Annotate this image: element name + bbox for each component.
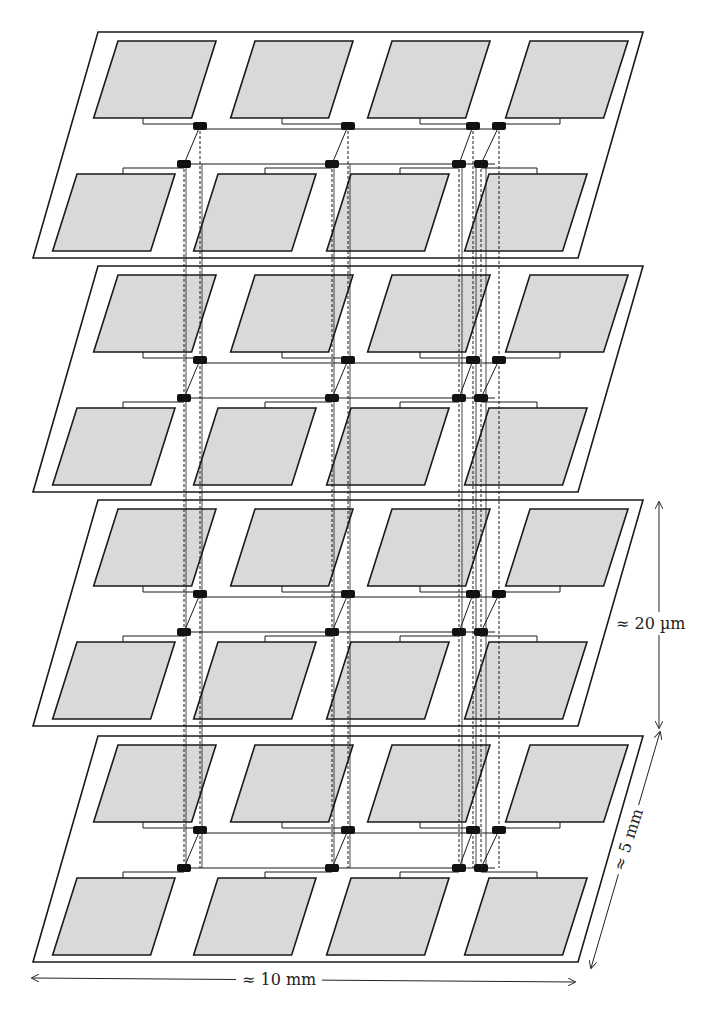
layer-4 (33, 736, 643, 962)
stacked-chip-diagram (0, 0, 715, 1012)
layer-3 (33, 500, 643, 726)
layer-2 (33, 266, 643, 492)
layer-1 (33, 32, 643, 258)
width-dimension-label: ≈ 10 mm (236, 970, 322, 989)
height-dimension-label: ≈ 20 µm (614, 612, 688, 635)
